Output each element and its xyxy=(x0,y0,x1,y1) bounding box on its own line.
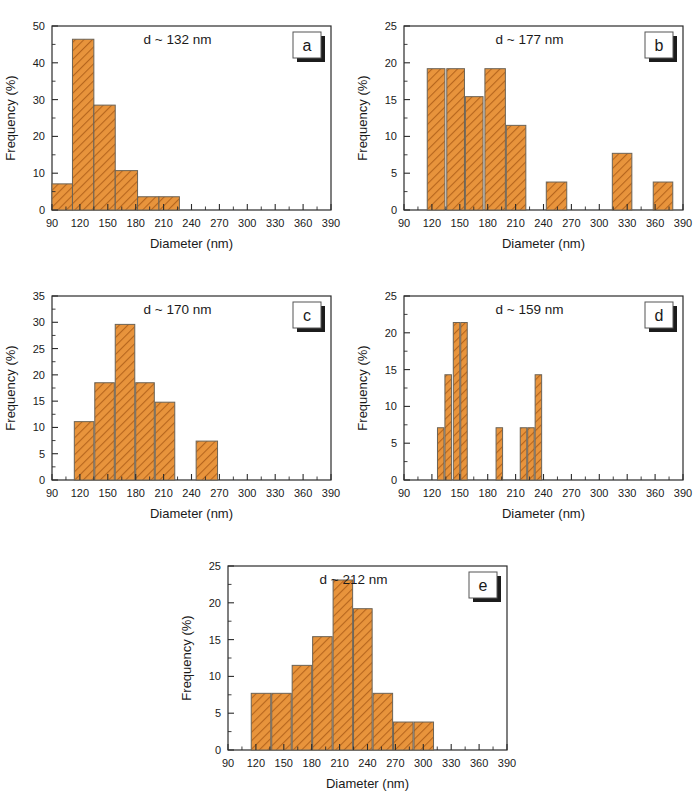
histogram-bar xyxy=(427,69,445,210)
x-tick-label: 120 xyxy=(71,217,89,229)
panel-e: 9012015018021024027030033036039005101520… xyxy=(176,544,521,806)
x-tick-label: 300 xyxy=(590,217,608,229)
panel-letter-box: b xyxy=(645,32,677,62)
histogram-bar xyxy=(354,609,373,750)
x-tick-label: 90 xyxy=(46,487,58,499)
x-tick-label: 300 xyxy=(238,217,256,229)
x-tick-label: 90 xyxy=(398,487,410,499)
y-tick-label: 0 xyxy=(391,474,397,486)
x-tick-label: 240 xyxy=(358,757,376,769)
y-tick-label: 10 xyxy=(209,670,221,682)
panel-letter-box: a xyxy=(293,32,325,62)
histogram-bar xyxy=(447,69,465,210)
histogram-bar xyxy=(95,383,115,480)
panel-letter-box: c xyxy=(293,302,325,332)
y-tick-label: 25 xyxy=(385,20,397,32)
y-tick-label: 10 xyxy=(385,400,397,412)
y-tick-label: 15 xyxy=(385,94,397,106)
x-tick-label: 390 xyxy=(322,487,340,499)
x-tick-label: 180 xyxy=(127,487,145,499)
histogram-bar xyxy=(159,197,179,210)
x-tick-label: 150 xyxy=(275,757,293,769)
histogram-bar xyxy=(94,105,115,210)
x-tick-label: 390 xyxy=(322,217,340,229)
y-tick-label: 25 xyxy=(209,560,221,572)
x-tick-label: 210 xyxy=(506,217,524,229)
y-axis: 0510152025 xyxy=(385,20,410,216)
y-tick-label: 15 xyxy=(385,364,397,376)
panel-letter-box: d xyxy=(645,302,677,332)
histogram-bar xyxy=(612,153,632,210)
panel-letter: b xyxy=(655,37,664,54)
y-tick-label: 10 xyxy=(385,130,397,142)
x-axis-title: Diameter (nm) xyxy=(502,236,585,251)
x-tick-label: 90 xyxy=(222,757,234,769)
y-tick-label: 5 xyxy=(39,448,45,460)
x-tick-label: 360 xyxy=(646,217,664,229)
x-tick-label: 390 xyxy=(498,757,516,769)
y-tick-label: 0 xyxy=(391,204,397,216)
histogram-bar xyxy=(136,383,155,480)
histogram-bar xyxy=(333,580,353,750)
y-tick-label: 20 xyxy=(385,327,397,339)
histogram-bar xyxy=(272,693,292,750)
panel-d: 9012015018021024027030033036039005101520… xyxy=(352,274,697,542)
x-tick-label: 360 xyxy=(294,217,312,229)
mean-diameter-annotation: d ~ 177 nm xyxy=(496,32,564,47)
x-tick-label: 180 xyxy=(127,217,145,229)
histogram-bar xyxy=(292,665,312,750)
bar-series xyxy=(427,69,673,210)
x-tick-label: 90 xyxy=(46,217,58,229)
y-axis-title: Frequency (%) xyxy=(3,345,18,430)
x-tick-label: 300 xyxy=(414,757,432,769)
histogram-bar xyxy=(465,97,483,210)
y-tick-label: 25 xyxy=(385,290,397,302)
y-axis-title: Frequency (%) xyxy=(355,345,370,430)
y-tick-label: 15 xyxy=(209,634,221,646)
x-tick-label: 90 xyxy=(398,217,410,229)
histogram-bar xyxy=(138,197,159,210)
y-tick-label: 20 xyxy=(385,57,397,69)
x-tick-label: 270 xyxy=(562,487,580,499)
histogram-bar xyxy=(453,322,460,480)
histogram-bar xyxy=(520,428,527,480)
mean-diameter-annotation: d ~ 212 nm xyxy=(320,572,388,587)
histogram-bar xyxy=(313,637,333,750)
histogram-bar xyxy=(115,324,135,480)
x-tick-label: 240 xyxy=(182,217,200,229)
x-tick-label: 120 xyxy=(71,487,89,499)
histogram-bar xyxy=(461,322,468,480)
x-tick-label: 330 xyxy=(266,487,284,499)
x-axis-title: Diameter (nm) xyxy=(150,236,233,251)
histogram-bar xyxy=(394,722,414,750)
mean-diameter-annotation: d ~ 170 nm xyxy=(144,302,212,317)
panel-c: 9012015018021024027030033036039005101520… xyxy=(0,274,345,542)
bar-series xyxy=(52,39,179,210)
x-tick-label: 270 xyxy=(210,217,228,229)
x-axis-title: Diameter (nm) xyxy=(150,506,233,521)
x-tick-label: 270 xyxy=(386,757,404,769)
x-tick-label: 270 xyxy=(562,217,580,229)
figure-histogram-grid: 9012015018021024027030033036039001020304… xyxy=(0,0,697,806)
histogram-bar xyxy=(445,375,452,480)
x-tick-label: 180 xyxy=(303,757,321,769)
histogram-bar xyxy=(437,428,444,480)
x-tick-label: 120 xyxy=(423,487,441,499)
histogram-bar xyxy=(373,693,393,750)
bar-series xyxy=(251,580,433,750)
y-tick-label: 50 xyxy=(33,20,45,32)
mean-diameter-annotation: d ~ 132 nm xyxy=(144,32,212,47)
x-tick-label: 360 xyxy=(646,487,664,499)
histogram-bar xyxy=(251,693,271,750)
y-axis: 05101520253035 xyxy=(33,290,58,486)
x-tick-label: 120 xyxy=(247,757,265,769)
y-axis: 0510152025 xyxy=(385,290,410,486)
panel-letter: e xyxy=(479,577,488,594)
mean-diameter-annotation: d ~ 159 nm xyxy=(496,302,564,317)
y-axis-title: Frequency (%) xyxy=(355,75,370,160)
x-tick-label: 240 xyxy=(534,217,552,229)
x-tick-label: 150 xyxy=(99,217,117,229)
y-tick-label: 5 xyxy=(391,167,397,179)
histogram-bar xyxy=(115,171,137,210)
y-tick-label: 0 xyxy=(39,204,45,216)
